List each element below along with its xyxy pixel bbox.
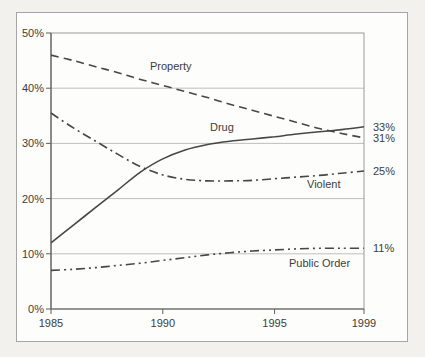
- y-tick-label: 50%: [22, 27, 44, 39]
- y-tick-label: 0%: [28, 303, 44, 315]
- y-tick-label: 10%: [22, 248, 44, 260]
- y-tick-label: 30%: [22, 137, 44, 149]
- series-line-violent: [51, 113, 364, 181]
- end-value-label-violent: 25%: [373, 165, 395, 177]
- series-label-drug: Drug: [210, 121, 234, 133]
- end-value-label-property: 31%: [373, 132, 395, 144]
- figure: 0%10%20%30%40%50%1985199019951999Propert…: [0, 0, 425, 357]
- end-value-label-public-order: 11%: [373, 242, 394, 254]
- y-tick-label: 20%: [22, 193, 44, 205]
- x-tick-label: 1985: [39, 317, 63, 329]
- series-label-public-order: Public Order: [289, 257, 350, 269]
- series-label-property: Property: [150, 60, 192, 72]
- series-line-property: [51, 55, 364, 138]
- x-tick-label: 1999: [352, 317, 376, 329]
- end-value-label-drug: 33%: [373, 121, 395, 133]
- x-tick-label: 1990: [151, 317, 175, 329]
- series-label-violent: Violent: [307, 178, 340, 190]
- x-tick-label: 1995: [262, 317, 286, 329]
- y-tick-label: 40%: [22, 82, 44, 94]
- line-chart: 0%10%20%30%40%50%1985199019951999Propert…: [0, 0, 425, 357]
